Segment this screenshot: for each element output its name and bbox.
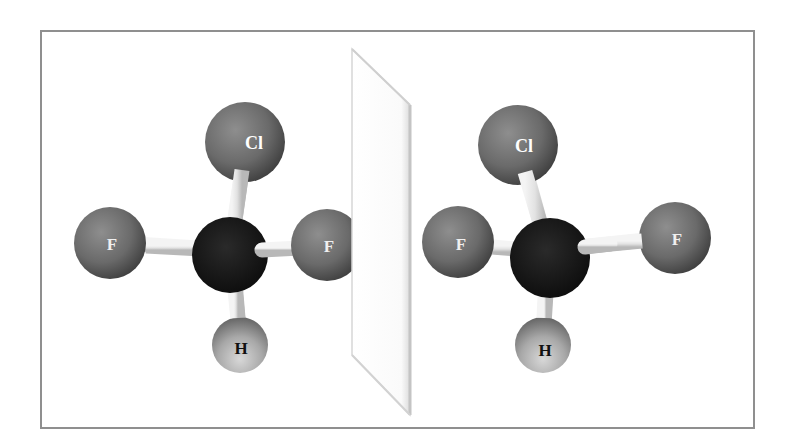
atom-label-f: F bbox=[107, 235, 117, 254]
bond-c-f2-front-stub bbox=[585, 244, 610, 247]
right-molecule: Cl F F H bbox=[422, 105, 711, 373]
atom-label-h: H bbox=[234, 339, 247, 358]
carbon-atom bbox=[510, 218, 590, 298]
molecule-scene: Cl F F H Cl F F H bbox=[0, 0, 793, 442]
atom-label-f: F bbox=[456, 235, 466, 254]
left-molecule: Cl F F H bbox=[74, 102, 363, 373]
mirror-plane-face bbox=[352, 49, 410, 415]
atom-label-f: F bbox=[324, 237, 334, 256]
atom-label-f: F bbox=[672, 230, 682, 249]
mirror-plane bbox=[352, 49, 410, 415]
atom-label-cl: Cl bbox=[245, 133, 263, 153]
atom-label-h: H bbox=[538, 341, 551, 360]
atom-label-cl: Cl bbox=[515, 136, 533, 156]
